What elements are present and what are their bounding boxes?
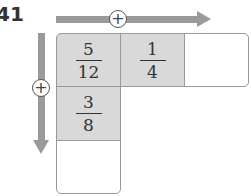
cell-middle-left: 38 [56,86,121,141]
numerator: 1 [147,40,158,58]
cell-top-left: 512 [56,33,121,87]
numerator: 5 [83,40,94,58]
cell-bottom-left-answer[interactable] [56,140,121,194]
right-arrow-icon [197,11,211,27]
down-arrow-icon [33,140,49,154]
cell-top-middle: 14 [120,33,185,87]
problem-number: 41 [0,2,24,26]
denominator: 4 [147,63,158,81]
plus-icon-vertical: + [32,79,50,97]
plus-icon-horizontal: + [109,10,127,28]
numerator: 3 [83,93,94,111]
horizontal-arrow [56,16,198,23]
cell-top-right-answer[interactable] [184,33,249,87]
denominator: 12 [78,63,100,81]
denominator: 8 [83,116,94,134]
